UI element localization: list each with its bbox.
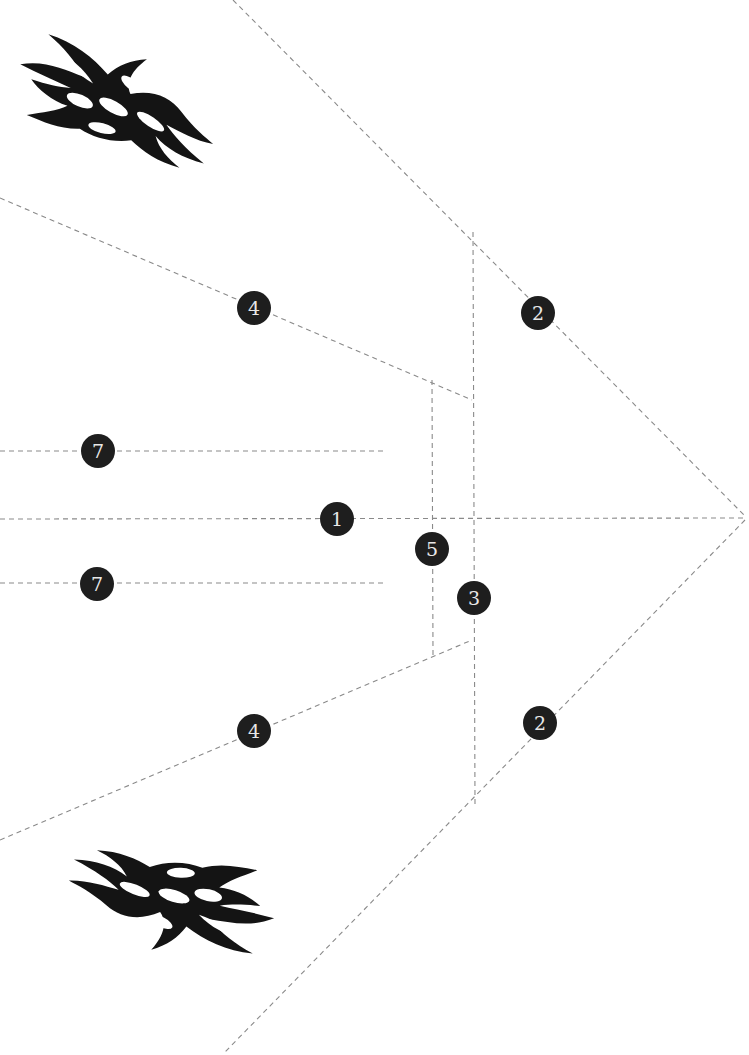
fold-step-badge-1: 1 <box>320 502 354 536</box>
fold-step-badge-3: 3 <box>457 581 491 615</box>
fold-step-badge-2: 2 <box>521 296 555 330</box>
fold-5-vertical-line <box>432 380 433 655</box>
fold-step-badge-4: 4 <box>237 291 271 325</box>
fold-3-vertical-line <box>473 232 475 805</box>
fold-step-badge-7: 7 <box>80 567 114 601</box>
fold-step-badge-7: 7 <box>81 434 115 468</box>
flame-icon <box>8 28 222 172</box>
fold-step-badge-2: 2 <box>523 706 557 740</box>
fold-step-badge-4: 4 <box>237 714 271 748</box>
fold-step-badge-5: 5 <box>415 532 449 566</box>
fold-1-center-line <box>0 518 745 519</box>
fold-2-top-line <box>233 0 745 516</box>
fold-4-top-line <box>0 198 472 400</box>
fold-4-bottom-line <box>0 640 472 840</box>
